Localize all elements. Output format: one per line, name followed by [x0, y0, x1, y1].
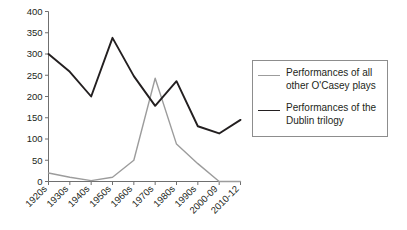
y-tick-label: 200 — [27, 91, 43, 102]
legend-item-other-plays: Performances of all other O'Casey plays — [258, 67, 384, 92]
y-tick-label: 400 — [27, 6, 43, 17]
data-series-group — [49, 38, 241, 182]
y-axis — [45, 12, 49, 182]
series-line-other-plays — [49, 78, 241, 181]
x-tick-label: 1970s — [129, 183, 155, 209]
y-tick-labels: 050100150200250300350400 — [27, 6, 43, 187]
y-tick-label: 50 — [32, 155, 43, 166]
x-tick-label: 1930s — [44, 183, 70, 209]
y-tick-label: 300 — [27, 48, 43, 59]
x-tick-label: 1950s — [87, 183, 113, 209]
x-tick-label: 1960s — [108, 183, 134, 209]
x-tick-label: 1940s — [65, 183, 91, 209]
x-tick-label: 1920s — [23, 183, 49, 209]
x-tick-labels: 1920s1930s1940s1950s1960s1970s1980s1990s… — [23, 183, 241, 216]
legend-label: Performances of all other O'Casey plays — [286, 67, 384, 92]
chart-container: 050100150200250300350400 1920s1930s1940s… — [0, 0, 407, 230]
legend-swatch-gray-line-icon — [258, 70, 280, 81]
legend-swatch-dark-line-icon — [258, 105, 280, 116]
y-tick-label: 250 — [27, 70, 43, 81]
x-tick-label: 1980s — [151, 183, 177, 209]
y-tick-label: 100 — [27, 133, 43, 144]
legend-item-dublin-trilogy: Performances of the Dublin trilogy — [258, 102, 384, 127]
y-tick-label: 350 — [27, 27, 43, 38]
y-tick-label: 150 — [27, 112, 43, 123]
legend-label: Performances of the Dublin trilogy — [286, 102, 384, 127]
chart-legend: Performances of all other O'Casey plays … — [252, 60, 388, 137]
